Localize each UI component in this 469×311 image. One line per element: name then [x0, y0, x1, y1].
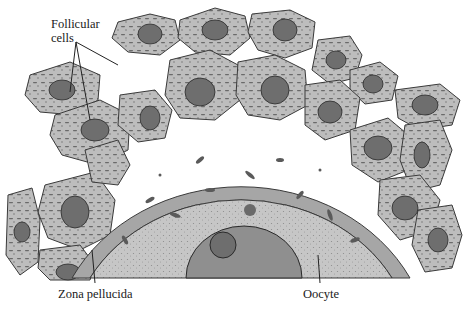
diagram-illustration — [0, 0, 469, 311]
follicular-cells-label-line1: Follicular — [51, 17, 100, 31]
follicular-cells-label-line2: cells — [51, 31, 100, 45]
oocyte-label: Oocyte — [303, 287, 339, 301]
follicular-cells-label: Follicular cells — [51, 17, 100, 45]
zona-pellucida-label: Zona pellucida — [58, 287, 133, 301]
oocyte-diagram: Follicular cells Zona pellucida Oocyte — [0, 0, 469, 311]
nucleolus — [210, 232, 236, 258]
